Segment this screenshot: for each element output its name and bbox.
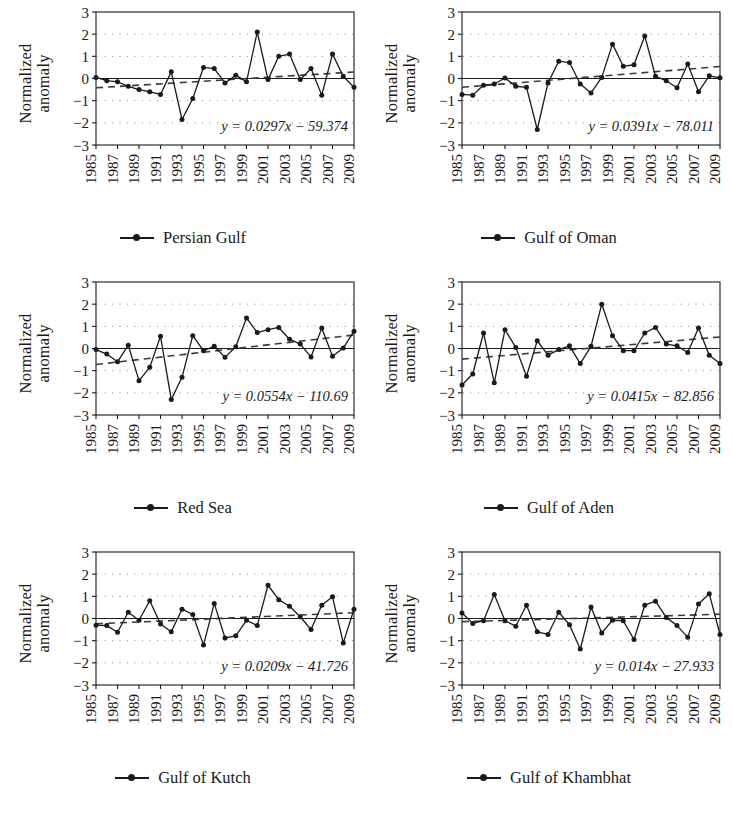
trend-equation: y = 0.0391x − 78.011 xyxy=(586,118,714,134)
data-point xyxy=(621,64,626,69)
data-point xyxy=(94,75,99,80)
data-point xyxy=(115,79,120,84)
legend-label: Gulf of Khambhat xyxy=(510,768,631,788)
chart-legend: Gulf of Kutch xyxy=(0,768,366,788)
data-point xyxy=(180,375,185,380)
data-point xyxy=(696,602,701,607)
x-tick-label: 1995 xyxy=(557,424,573,454)
y-tick-label: −1 xyxy=(439,363,455,379)
chart-plot: 3210−1−2−3198519871989199119931995199719… xyxy=(366,540,732,755)
data-point xyxy=(137,87,142,92)
y-tick-label: 3 xyxy=(448,545,456,561)
x-tick-label: 2009 xyxy=(341,694,357,724)
data-point xyxy=(589,90,594,95)
data-point xyxy=(460,383,465,388)
data-point xyxy=(201,65,206,70)
data-point xyxy=(492,82,497,87)
x-tick-label: 2005 xyxy=(664,154,680,184)
data-point xyxy=(190,612,195,617)
y-tick-label: 3 xyxy=(82,275,90,291)
x-tick-label: 1993 xyxy=(535,154,551,184)
y-tick-label: −1 xyxy=(73,633,89,649)
x-tick-label: 1989 xyxy=(492,694,508,724)
data-point xyxy=(621,618,626,623)
legend-line-marker-icon xyxy=(120,233,154,243)
x-tick-label: 2007 xyxy=(686,424,702,455)
data-point xyxy=(158,334,163,339)
data-point xyxy=(642,603,647,608)
data-point xyxy=(610,333,615,338)
data-point xyxy=(599,75,604,80)
y-tick-label: −3 xyxy=(439,138,455,154)
data-point xyxy=(330,52,335,57)
x-tick-label: 1993 xyxy=(169,154,185,184)
trend-equation: y = 0.0297x − 59.374 xyxy=(219,118,348,134)
data-point xyxy=(276,597,281,602)
y-tick-label: 0 xyxy=(448,341,456,357)
data-point xyxy=(212,601,217,606)
x-tick-label: 1995 xyxy=(557,154,573,184)
x-tick-label: 1989 xyxy=(126,154,142,184)
x-tick-label: 1999 xyxy=(600,694,616,724)
chart-plot: 3210−1−2−3198519871989199119931995199719… xyxy=(0,540,366,755)
x-tick-label: 1987 xyxy=(105,424,121,455)
y-tick-label: −1 xyxy=(73,363,89,379)
data-point xyxy=(599,302,604,307)
data-point xyxy=(718,632,723,637)
chart-legend: Gulf of Khambhat xyxy=(366,768,732,788)
data-point xyxy=(147,598,152,603)
data-point xyxy=(126,84,131,89)
data-point xyxy=(535,338,540,343)
data-point xyxy=(147,365,152,370)
x-tick-label: 1985 xyxy=(449,154,465,184)
data-point xyxy=(94,347,99,352)
data-point xyxy=(632,62,637,67)
data-point xyxy=(675,343,680,348)
data-point xyxy=(556,610,561,615)
x-tick-label: 2009 xyxy=(341,154,357,184)
data-point xyxy=(470,93,475,98)
data-point xyxy=(707,353,712,358)
y-tick-label: −1 xyxy=(439,93,455,109)
data-point xyxy=(180,607,185,612)
x-tick-label: 2007 xyxy=(320,694,336,725)
x-tick-label: 1985 xyxy=(449,424,465,454)
x-tick-label: 1987 xyxy=(105,154,121,185)
y-tick-label: 2 xyxy=(448,297,456,313)
data-point xyxy=(190,96,195,101)
data-point xyxy=(610,618,615,623)
data-point xyxy=(556,347,561,352)
data-point xyxy=(718,361,723,366)
y-tick-label: −2 xyxy=(73,115,89,131)
x-tick-label: 1985 xyxy=(83,694,99,724)
y-tick-label: 2 xyxy=(82,297,90,313)
data-point xyxy=(276,54,281,59)
data-point xyxy=(126,610,131,615)
data-point xyxy=(137,618,142,623)
x-tick-label: 1995 xyxy=(557,694,573,724)
y-tick-label: 1 xyxy=(448,319,456,335)
trend-line xyxy=(96,335,354,364)
data-point xyxy=(632,637,637,642)
trend-equation: y = 0.0415x − 82.856 xyxy=(585,388,714,404)
x-tick-label: 1985 xyxy=(449,694,465,724)
data-point xyxy=(535,127,540,132)
y-tick-label: 1 xyxy=(82,319,90,335)
y-tick-label: −2 xyxy=(439,385,455,401)
legend-line-marker-icon xyxy=(115,773,149,783)
legend-label: Gulf of Kutch xyxy=(158,768,251,788)
data-point xyxy=(233,344,238,349)
y-tick-label: −3 xyxy=(73,138,89,154)
data-point xyxy=(309,627,314,632)
data-point xyxy=(201,643,206,648)
data-point xyxy=(460,92,465,97)
data-point xyxy=(653,599,658,604)
x-tick-label: 2007 xyxy=(320,154,336,185)
data-point xyxy=(158,622,163,627)
x-tick-label: 2005 xyxy=(664,424,680,454)
y-tick-label: −3 xyxy=(73,408,89,424)
data-point xyxy=(169,397,174,402)
x-tick-label: 1995 xyxy=(191,424,207,454)
y-tick-label: 2 xyxy=(82,567,90,583)
x-tick-label: 1991 xyxy=(514,694,530,724)
